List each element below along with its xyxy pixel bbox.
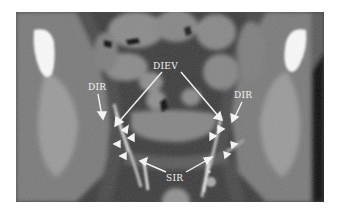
label-dir-right: DIR [234, 91, 252, 100]
label-dir-left: DIR [88, 83, 106, 92]
label-diev: DIEV [153, 62, 178, 71]
ct-scan-image: DIEV DIR DIR SIR * [16, 12, 324, 202]
label-asterisk: * [207, 170, 211, 178]
label-sir: SIR [166, 174, 183, 183]
